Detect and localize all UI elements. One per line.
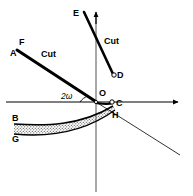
diagram-svg (0, 0, 193, 196)
label-d: D (117, 71, 124, 80)
label-c: C (116, 99, 123, 108)
label-g: G (12, 135, 19, 144)
label-b: B (12, 114, 19, 123)
label-cut-curve: Cut (104, 37, 119, 46)
origin-marker (94, 100, 97, 103)
diagram-canvas: F A E D O C H B G Cut Cut 2ω (0, 0, 193, 196)
point-c-marker (110, 100, 114, 104)
label-e: E (73, 9, 79, 18)
angle-arc-2omega (80, 96, 88, 102)
cut-line-af (17, 50, 95, 101)
cut-line-extension (96, 102, 180, 155)
stippled-band-fill (14, 106, 115, 135)
label-angle-2omega: 2ω (61, 92, 72, 101)
label-f: F (19, 38, 25, 47)
label-a: A (10, 49, 17, 58)
label-o: O (99, 89, 106, 98)
label-h: H (112, 111, 119, 120)
point-d-marker (112, 73, 116, 77)
label-cut-line: Cut (41, 50, 56, 59)
